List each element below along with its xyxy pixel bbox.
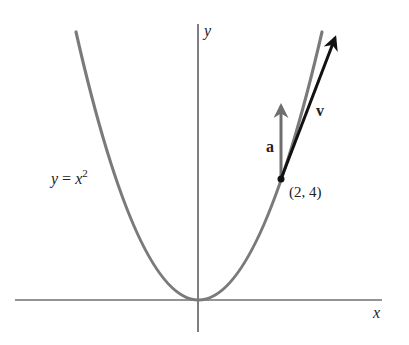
point-label: (2, 4)	[289, 184, 322, 201]
curve-label: y = x2	[49, 167, 88, 188]
velocity-label: v	[316, 102, 324, 119]
point-marker	[278, 176, 285, 183]
acceleration-label: a	[266, 138, 274, 155]
velocity-vector	[281, 38, 335, 179]
axis-y-label: y	[202, 22, 212, 40]
parabola-diagram: y x y = x2 (2, 4) v a	[0, 0, 409, 345]
axis-x-label: x	[372, 304, 380, 321]
